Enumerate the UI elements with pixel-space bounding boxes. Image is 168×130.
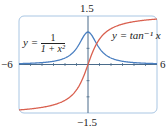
annotation-reciprocal: y = 1 1 + x² (23, 33, 65, 54)
annotation-reciprocal-lhs: y = (23, 36, 38, 48)
fraction: 1 1 + x² (41, 33, 65, 54)
plot-area (0, 0, 168, 130)
y-max-label: 1.5 (80, 3, 94, 14)
y-min-label: −1.5 (77, 117, 97, 128)
x-max-label: 6 (160, 59, 166, 70)
x-min-label: −6 (1, 59, 13, 70)
denominator: 1 + x² (41, 44, 65, 54)
annotation-arctan: y = tan⁻¹ x (112, 30, 161, 41)
